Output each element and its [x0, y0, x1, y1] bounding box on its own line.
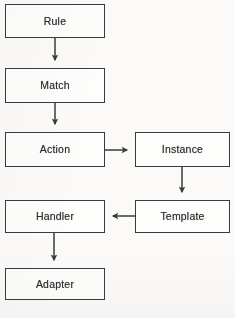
node-action[interactable]: Action	[5, 132, 105, 167]
node-match-label: Match	[40, 80, 70, 91]
node-rule-label: Rule	[44, 16, 66, 27]
node-instance[interactable]: Instance	[135, 132, 230, 167]
node-handler-label: Handler	[36, 211, 74, 222]
node-action-label: Action	[40, 144, 70, 155]
node-template[interactable]: Template	[135, 200, 230, 233]
flow-diagram: Rule Match Action Instance Template Hand…	[0, 0, 235, 318]
node-rule[interactable]: Rule	[5, 4, 105, 38]
node-match[interactable]: Match	[5, 68, 105, 103]
node-handler[interactable]: Handler	[5, 200, 105, 233]
node-adapter[interactable]: Adapter	[5, 268, 105, 300]
node-adapter-label: Adapter	[36, 279, 74, 290]
node-template-label: Template	[160, 211, 204, 222]
node-instance-label: Instance	[162, 144, 203, 155]
